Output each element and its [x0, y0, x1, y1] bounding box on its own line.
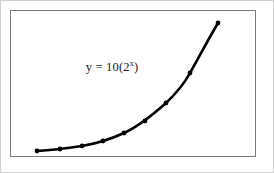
- figure-root: y = 10(2x): [0, 0, 274, 173]
- data-point-marker: [80, 144, 85, 149]
- data-point-marker: [58, 147, 63, 152]
- data-point-marker: [143, 119, 148, 124]
- exponential-curve-plot: [0, 0, 274, 173]
- equation-annotation: y = 10(2x): [0, 60, 274, 75]
- exponential-curve-line: [37, 23, 218, 151]
- data-point-marker: [122, 131, 127, 136]
- data-point-marker: [216, 21, 221, 26]
- equation-prefix: y = 10(2: [86, 60, 130, 74]
- equation-suffix: ): [134, 60, 138, 74]
- curve-group: [35, 21, 221, 154]
- data-point-markers: [35, 21, 221, 154]
- data-point-marker: [101, 139, 106, 144]
- data-point-marker: [35, 149, 40, 154]
- data-point-marker: [164, 101, 169, 106]
